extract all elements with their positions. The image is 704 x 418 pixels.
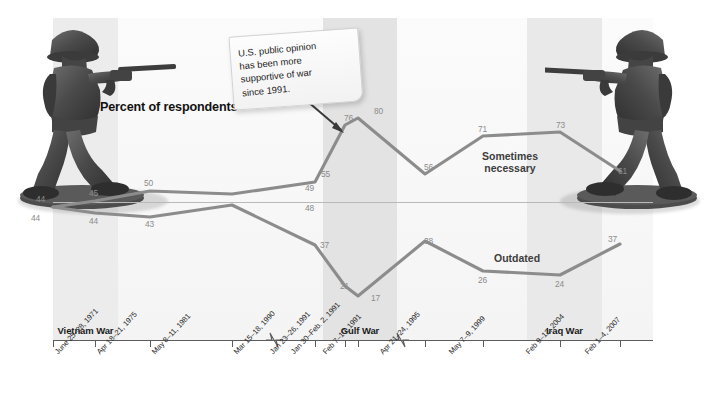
value-label-lower-4: 37	[320, 240, 329, 250]
x-tick-1	[95, 340, 96, 347]
soldier-right-figure	[545, 12, 704, 212]
series-label-outdated: Outdated	[494, 252, 540, 264]
x-tick-3	[232, 340, 233, 347]
series-label-sometimes-necessary: Sometimes necessary	[482, 150, 538, 174]
x-tick-2	[150, 340, 151, 347]
value-label-lower-10: 37	[608, 234, 617, 244]
value-label-upper-10: 61	[618, 166, 627, 176]
series-label-line2: necessary	[484, 162, 535, 174]
callout-line-4: since 1991.	[242, 82, 291, 98]
x-tick-9	[560, 340, 561, 347]
series-label-line1: Sometimes	[482, 150, 538, 162]
x-tick-6	[358, 340, 359, 347]
callout-text: U.S. public opinion has been more suppor…	[238, 35, 359, 99]
value-label-upper-5: 76	[344, 113, 353, 123]
value-label-upper-7: 56	[424, 162, 433, 172]
value-label-lower-7: 38	[424, 236, 433, 246]
value-label-upper-0: 44	[36, 194, 45, 204]
value-label-lower-8: 26	[478, 275, 487, 285]
chart-figure: Vietnam War Gulf War Iraq War	[0, 0, 704, 418]
value-label-upper-2: 50	[144, 178, 153, 188]
x-tick-8	[483, 340, 484, 347]
x-axis-line	[53, 340, 653, 341]
chart-baseline	[53, 202, 653, 203]
value-label-upper-6: 80	[374, 106, 383, 116]
value-label-lower-3: 48	[305, 203, 314, 213]
value-label-lower-1: 44	[89, 216, 98, 226]
x-tick-0	[53, 340, 54, 347]
value-label-upper-1: 45	[89, 188, 98, 198]
value-label-upper-9: 73	[556, 120, 565, 130]
callout-box: U.S. public opinion has been more suppor…	[228, 27, 363, 110]
value-label-upper-3: 49	[305, 183, 314, 193]
value-label-lower-9: 24	[555, 279, 564, 289]
value-label-lower-0: 44	[31, 213, 40, 223]
page-title: Percent of respondents	[100, 100, 237, 114]
value-label-lower-6: 17	[371, 293, 380, 303]
value-label-upper-4: 55	[321, 169, 330, 179]
x-tick-5	[345, 340, 346, 347]
value-label-lower-5: 21	[340, 281, 349, 291]
x-tick-4	[315, 340, 316, 347]
value-label-upper-8: 71	[478, 124, 487, 134]
x-tick-7	[425, 340, 426, 347]
x-tick-10	[620, 340, 621, 347]
value-label-lower-2: 43	[145, 219, 154, 229]
